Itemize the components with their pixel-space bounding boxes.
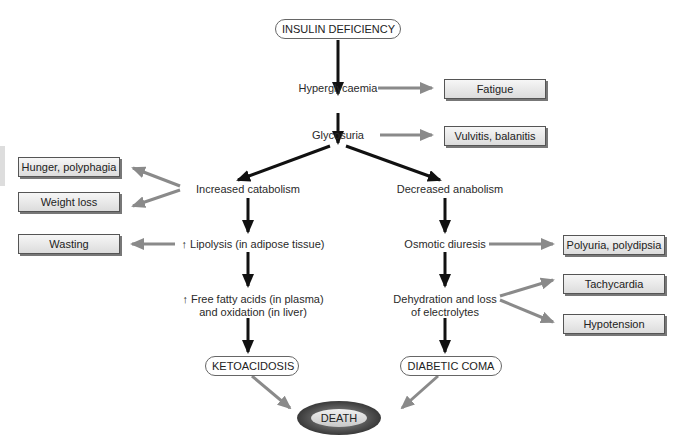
lipolysis-label: ↑ Lipolysis (in adipose tissue) bbox=[178, 238, 328, 251]
arrows-layer bbox=[0, 0, 675, 443]
dehydration-line1: Dehydration and loss bbox=[390, 293, 500, 306]
polyuria-polydipsia-box: Polyuria, polydipsia bbox=[563, 235, 665, 255]
free-fatty-acids-line2: and oxidation (in liver) bbox=[178, 306, 328, 319]
death-node: DEATH bbox=[297, 401, 381, 435]
hunger-polyphagia-box: Hunger, polyphagia bbox=[18, 157, 120, 177]
death-label: DEATH bbox=[311, 409, 367, 427]
ketoacidosis-node: KETOACIDOSIS bbox=[205, 356, 299, 376]
decreased-anabolism-label: Decreased anabolism bbox=[390, 183, 510, 196]
free-fatty-acids-line1: ↑ Free fatty acids (in plasma) bbox=[178, 293, 328, 306]
vulvitis-balanitis-box: Vulvitis, balanitis bbox=[444, 126, 546, 146]
hyperglycaemia-label: Hyperglycaemia bbox=[288, 82, 388, 95]
free-fatty-acids-label: ↑ Free fatty acids (in plasma) and oxida… bbox=[178, 293, 328, 319]
osmotic-diuresis-label: Osmotic diuresis bbox=[395, 238, 495, 251]
glycosuria-label: Glycosuria bbox=[288, 129, 388, 142]
tachycardia-box: Tachycardia bbox=[563, 274, 665, 294]
fatigue-box: Fatigue bbox=[444, 79, 546, 99]
weight-loss-box: Weight loss bbox=[18, 192, 120, 212]
hypotension-box: Hypotension bbox=[563, 314, 665, 334]
dehydration-label: Dehydration and loss of electrolytes bbox=[390, 293, 500, 319]
increased-catabolism-label: Increased catabolism bbox=[183, 183, 313, 196]
diabetic-coma-node: DIABETIC COMA bbox=[400, 356, 502, 376]
dehydration-line2: of electrolytes bbox=[390, 306, 500, 319]
wasting-box: Wasting bbox=[18, 234, 120, 254]
insulin-deficiency-node: INSULIN DEFICIENCY bbox=[275, 19, 401, 39]
